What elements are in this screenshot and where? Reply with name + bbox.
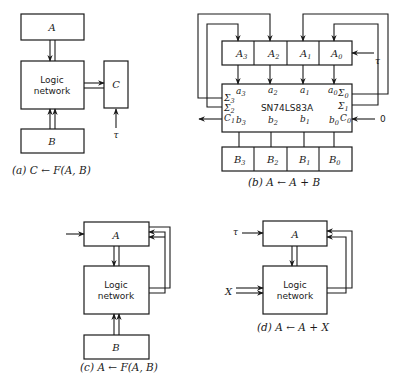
register-a-label: A [111, 230, 119, 241]
chip-label: SN74LS83A [261, 103, 314, 113]
logic-network [263, 266, 327, 314]
clock-label: τ [233, 227, 239, 237]
feedback-1 [327, 231, 352, 288]
feedback-2 [327, 237, 346, 293]
panel-a: A Logic network B C τ (a) C ← F(A, B) [12, 14, 128, 176]
panel-c: A Logic network B (c) A ← F(A, B) [66, 222, 170, 373]
feedback-1 [149, 232, 165, 293]
register-transfer-diagram: A Logic network B C τ (a) C ← F(A, B) A3… [0, 0, 399, 384]
logic-network [84, 266, 149, 314]
logic-network-label-2: network [98, 291, 135, 301]
caption-d: (d) A ← A + X [257, 321, 329, 333]
caption-c: (c) A ← F(A, B) [80, 361, 158, 373]
panel-d: A Logic network τ X (d) A ← A + X [224, 221, 352, 333]
register-b-label: B [47, 136, 55, 147]
register-c-label: C [112, 79, 120, 90]
logic-network-label-2: network [277, 291, 314, 301]
logic-network-label-2: network [34, 86, 71, 96]
register-b-label: B [111, 342, 119, 353]
caption-a: (a) C ← F(A, B) [12, 164, 91, 176]
logic-network-label-1: Logic [40, 75, 64, 85]
input-x-label: X [224, 286, 233, 297]
logic-network-label-1: Logic [283, 280, 307, 290]
register-a-label: A [47, 22, 55, 33]
logic-network [21, 61, 84, 109]
clock-label: τ [114, 130, 120, 140]
caption-b: (b) A ← A + B [248, 176, 320, 188]
carry-in-value: 0 [380, 114, 386, 124]
feedback-2 [149, 227, 170, 288]
logic-network-label-1: Logic [104, 280, 128, 290]
register-a-label: A [290, 229, 298, 240]
